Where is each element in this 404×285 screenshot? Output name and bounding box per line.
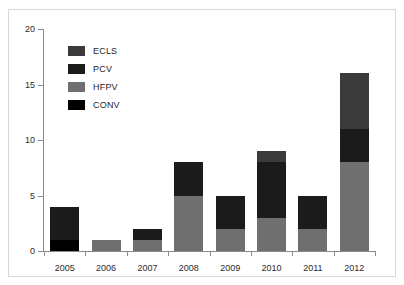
bar-segment-ecls[interactable] [257, 151, 286, 162]
bar-segment-hfpv[interactable] [133, 240, 162, 251]
bar-2007[interactable] [133, 229, 162, 251]
legend-item-conv[interactable]: CONV [68, 97, 120, 112]
y-tick-label: 0 [30, 246, 35, 256]
bar-2011[interactable] [298, 196, 327, 251]
legend-item-pcv[interactable]: PCV [68, 61, 120, 76]
x-tick-mark [334, 251, 335, 256]
y-tick-mark [38, 29, 43, 30]
x-tick-mark [251, 251, 252, 256]
y-tick-label: 10 [25, 135, 35, 145]
bar-2010[interactable] [257, 151, 286, 251]
y-tick-mark [38, 85, 43, 86]
bar-segment-pcv[interactable] [174, 162, 203, 195]
legend-label: HFPV [93, 82, 118, 92]
x-tick-label-2009: 2009 [220, 263, 240, 273]
bar-segment-pcv[interactable] [133, 229, 162, 240]
legend-item-ecls[interactable]: ECLS [68, 43, 120, 58]
bar-segment-hfpv[interactable] [174, 196, 203, 252]
x-tick-label-2005: 2005 [55, 263, 75, 273]
x-tick-mark [375, 251, 376, 256]
bar-2008[interactable] [174, 162, 203, 251]
bar-2006[interactable] [92, 240, 121, 251]
legend-label: PCV [93, 64, 112, 74]
x-tick-label-2012: 2012 [344, 263, 364, 273]
legend-swatch-ecls [68, 46, 85, 56]
bar-2012[interactable] [340, 73, 369, 251]
x-tick-label-2010: 2010 [262, 263, 282, 273]
bar-2009[interactable] [216, 196, 245, 251]
y-axis-line [43, 29, 44, 251]
bar-segment-ecls[interactable] [340, 73, 369, 129]
y-tick-label: 20 [25, 24, 35, 34]
bar-segment-hfpv[interactable] [257, 218, 286, 251]
bar-segment-pcv[interactable] [257, 162, 286, 218]
y-tick-label: 15 [25, 80, 35, 90]
y-tick-mark [38, 251, 43, 252]
bar-segment-conv[interactable] [50, 240, 79, 251]
legend-swatch-conv [68, 100, 85, 110]
legend-label: ECLS [93, 46, 117, 56]
legend-item-hfpv[interactable]: HFPV [68, 79, 120, 94]
x-tick-label-2008: 2008 [179, 263, 199, 273]
x-tick-mark [210, 251, 211, 256]
bar-segment-pcv[interactable] [340, 129, 369, 162]
bar-segment-hfpv[interactable] [340, 162, 369, 251]
figure: 05101520 2005200620072008200920102011201… [0, 0, 404, 285]
x-tick-mark [127, 251, 128, 256]
y-tick-label: 5 [30, 191, 35, 201]
x-tick-mark [292, 251, 293, 256]
plot-area: 05101520 2005200620072008200920102011201… [44, 29, 375, 251]
x-tick-label-2007: 2007 [137, 263, 157, 273]
x-tick-label-2006: 2006 [96, 263, 116, 273]
bar-segment-pcv[interactable] [50, 207, 79, 240]
bar-segment-hfpv[interactable] [298, 229, 327, 251]
bar-segment-pcv[interactable] [216, 196, 245, 229]
bar-segment-hfpv[interactable] [92, 240, 121, 251]
x-tick-label-2011: 2011 [303, 263, 322, 273]
bar-segment-hfpv[interactable] [216, 229, 245, 251]
legend: ECLSPCVHFPVCONV [68, 43, 120, 115]
caption-sliver [0, 0, 404, 7]
legend-swatch-pcv [68, 64, 85, 74]
y-tick-mark [38, 140, 43, 141]
bar-segment-pcv[interactable] [298, 196, 327, 229]
x-tick-mark [85, 251, 86, 256]
legend-label: CONV [93, 100, 120, 110]
bar-2005[interactable] [50, 207, 79, 251]
legend-swatch-hfpv [68, 82, 85, 92]
x-tick-mark [168, 251, 169, 256]
x-tick-mark [44, 251, 45, 256]
y-tick-mark [38, 196, 43, 197]
